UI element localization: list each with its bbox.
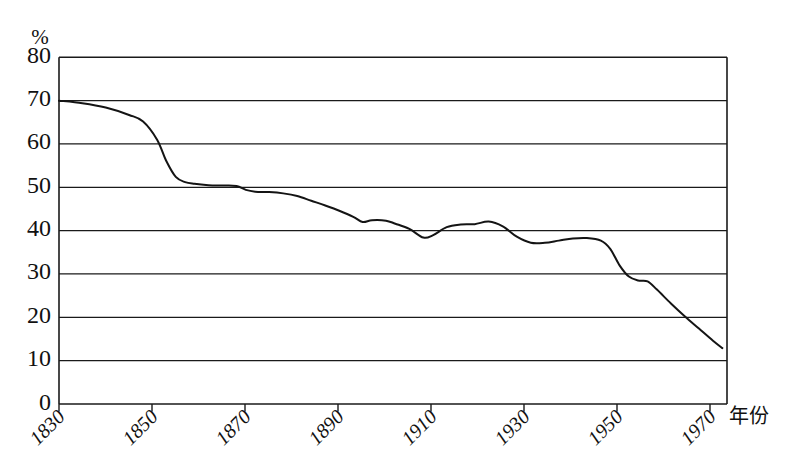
x-tick-label: 1970 (676, 405, 720, 449)
x-tick-label: 1950 (583, 405, 627, 449)
y-tick-label: 60 (27, 128, 51, 154)
y-tick-label: 70 (27, 85, 51, 111)
x-tick-label: 1850 (118, 405, 162, 449)
chart-figure: % 80 70 60 50 40 30 20 10 0 1830 1850 18… (0, 0, 792, 475)
y-axis-tick-labels: 80 70 60 50 40 30 20 10 0 (27, 42, 51, 415)
x-axis-tick-labels: 1830 1850 1870 1890 1910 1930 1950 1970 (25, 405, 720, 449)
line-chart-canvas: % 80 70 60 50 40 30 20 10 0 1830 1850 18… (0, 0, 792, 475)
x-tick-label: 1870 (211, 405, 255, 449)
y-tick-label: 30 (27, 258, 51, 284)
y-tick-label: 40 (27, 215, 51, 241)
gridlines-horizontal (59, 101, 727, 361)
y-tick-label: 50 (27, 172, 51, 198)
x-tick-label: 1910 (397, 405, 441, 449)
x-tick-label: 1890 (304, 405, 348, 449)
data-series-line (59, 101, 722, 348)
x-tick-label: 1830 (25, 405, 69, 449)
x-axis-name-label: 年份 (729, 405, 769, 427)
x-tick-label: 1930 (490, 405, 534, 449)
y-tick-label: 20 (27, 302, 51, 328)
y-tick-label: 80 (27, 42, 51, 68)
y-tick-label: 10 (27, 345, 51, 371)
